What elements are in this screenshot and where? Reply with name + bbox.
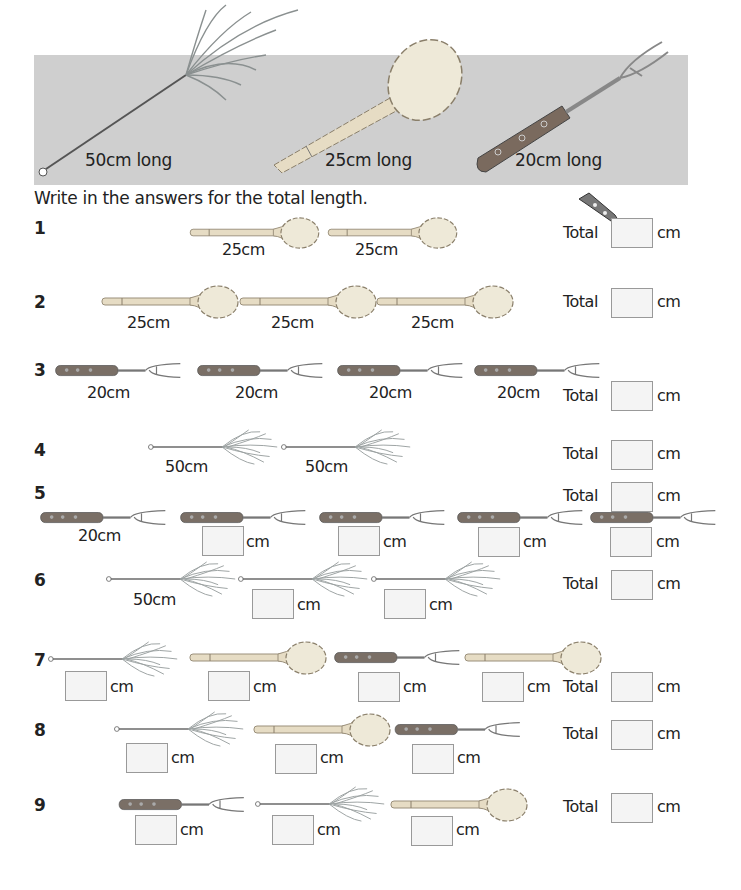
question-number: 4 xyxy=(34,440,46,460)
unit-label: cm xyxy=(457,748,480,767)
fork-icon xyxy=(583,507,723,529)
length-label: 50cm xyxy=(133,590,176,609)
question-number: 1 xyxy=(34,218,46,238)
question-number: 5 xyxy=(34,483,46,503)
unit-label: cm xyxy=(657,223,680,242)
length-label: 20cm xyxy=(497,383,540,402)
question-number: 6 xyxy=(34,570,46,590)
spoon-icon xyxy=(100,284,240,320)
total-label: Total xyxy=(563,724,598,743)
instructions: Write in the answers for the total lengt… xyxy=(34,188,368,208)
total-label: Total xyxy=(563,444,598,463)
spoon-icon xyxy=(463,640,603,676)
fork-icon xyxy=(467,360,607,382)
question-number: 9 xyxy=(34,795,46,815)
length-label: 20cm xyxy=(87,383,130,402)
total-label: Total xyxy=(563,574,598,593)
total-label: Total xyxy=(563,797,598,816)
length-answer-box[interactable] xyxy=(482,672,524,702)
length-label: 20cm xyxy=(78,526,121,545)
unit-label: cm xyxy=(456,820,479,839)
unit-label: cm xyxy=(383,532,406,551)
total-label: Total xyxy=(563,292,598,311)
unit-label: cm xyxy=(656,532,679,551)
length-answer-box[interactable] xyxy=(478,527,520,557)
fork-icon xyxy=(327,647,467,669)
unit-label: cm xyxy=(657,677,680,696)
length-label: 25cm xyxy=(271,313,314,332)
length-label: 25cm xyxy=(222,240,265,259)
length-answer-box[interactable] xyxy=(275,744,317,774)
question-number: 8 xyxy=(34,720,46,740)
length-answer-box[interactable] xyxy=(272,815,314,845)
length-answer-box[interactable] xyxy=(610,527,652,557)
length-answer-box[interactable] xyxy=(384,589,426,619)
unit-label: cm xyxy=(429,595,452,614)
length-label: 20cm xyxy=(369,383,412,402)
total-label: Total xyxy=(563,223,598,242)
unit-label: cm xyxy=(171,748,194,767)
length-label: 50cm xyxy=(305,457,348,476)
spoon-icon xyxy=(252,712,392,748)
length-label: 25cm xyxy=(411,313,454,332)
length-answer-box[interactable] xyxy=(126,743,168,773)
question-number: 2 xyxy=(34,292,46,312)
length-label: 20cm xyxy=(235,383,278,402)
fork-icon xyxy=(450,507,590,529)
length-answer-box[interactable] xyxy=(208,671,250,701)
length-label: 25cm xyxy=(127,313,170,332)
length-answer-box[interactable] xyxy=(252,589,294,619)
unit-label: cm xyxy=(657,292,680,311)
fork-icon xyxy=(190,360,330,382)
length-label: 50cm xyxy=(165,457,208,476)
banner-label-fork: 20cm long xyxy=(515,150,602,170)
unit-label: cm xyxy=(657,444,680,463)
total-answer-box[interactable] xyxy=(611,720,653,750)
length-answer-box[interactable] xyxy=(202,526,244,556)
length-answer-box[interactable] xyxy=(65,671,107,701)
unit-label: cm xyxy=(253,677,276,696)
unit-label: cm xyxy=(110,677,133,696)
total-answer-box[interactable] xyxy=(611,570,653,600)
length-answer-box[interactable] xyxy=(411,816,453,846)
unit-label: cm xyxy=(403,677,426,696)
length-answer-box[interactable] xyxy=(338,526,380,556)
total-answer-box[interactable] xyxy=(611,672,653,702)
banner-label-duster: 50cm long xyxy=(85,150,172,170)
total-label: Total xyxy=(563,386,598,405)
total-answer-box[interactable] xyxy=(611,218,653,248)
unit-label: cm xyxy=(657,724,680,743)
unit-label: cm xyxy=(527,677,550,696)
total-answer-box[interactable] xyxy=(611,381,653,411)
fork-icon xyxy=(390,719,525,741)
total-answer-box[interactable] xyxy=(611,440,653,470)
unit-label: cm xyxy=(297,595,320,614)
question-number: 3 xyxy=(34,360,46,380)
spoon-icon xyxy=(389,787,529,823)
total-answer-box[interactable] xyxy=(611,288,653,318)
unit-label: cm xyxy=(657,386,680,405)
banner-label-spoon: 25cm long xyxy=(325,150,412,170)
length-answer-box[interactable] xyxy=(358,672,400,702)
length-label: 25cm xyxy=(355,240,398,259)
unit-label: cm xyxy=(657,486,680,505)
fork-icon xyxy=(330,360,470,382)
unit-label: cm xyxy=(180,820,203,839)
fork-icon xyxy=(114,794,249,816)
total-answer-box[interactable] xyxy=(611,793,653,823)
unit-label: cm xyxy=(657,797,680,816)
total-label: Total xyxy=(563,677,598,696)
unit-label: cm xyxy=(246,532,269,551)
unit-label: cm xyxy=(320,748,343,767)
unit-label: cm xyxy=(317,820,340,839)
total-label: Total xyxy=(563,486,598,505)
length-answer-box[interactable] xyxy=(135,815,177,845)
unit-label: cm xyxy=(657,574,680,593)
length-answer-box[interactable] xyxy=(412,744,454,774)
question-number: 7 xyxy=(34,650,46,670)
fork-icon xyxy=(48,360,188,382)
unit-label: cm xyxy=(523,532,546,551)
fork-icon xyxy=(312,507,452,529)
